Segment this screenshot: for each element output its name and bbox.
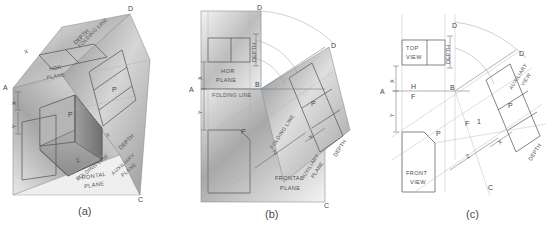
front-view-label-c: FRONT VIEW (406, 170, 427, 185)
svg-text:VIEW: VIEW (410, 179, 426, 185)
feature-label-p-front-c: P (436, 130, 441, 137)
panel-a-caption: (a) (78, 205, 91, 217)
svg-text:X: X (197, 76, 203, 80)
reference-label-f-mid-c: F (465, 120, 469, 127)
svg-text:X: X (389, 79, 395, 83)
point-label-d-top-b: D (257, 4, 262, 11)
svg-text:Y: Y (197, 110, 203, 114)
dim-label-y-left-c: Y (389, 113, 395, 117)
point-label-a-b: A (189, 86, 194, 93)
dim-label-depth-aux-c: DEPTH (527, 143, 542, 162)
reference-line-f1-c (455, 50, 516, 91)
svg-text:DEPTH: DEPTH (527, 143, 542, 162)
svg-text:X: X (23, 48, 29, 55)
feature-label-p-aux-a: P (112, 86, 117, 93)
svg-text:DEPTH: DEPTH (251, 43, 257, 62)
dim-label-depth-top-c: DEPTH (445, 45, 451, 64)
svg-text:TOP: TOP (406, 45, 419, 51)
panel-b-caption: (b) (265, 208, 278, 220)
point-label-a-c: A (380, 88, 385, 95)
panel-a-pictorial: A D C HOR PLANE FRONTAL PLANE AUXILIARY … (0, 0, 186, 227)
point-label-d-right-b: D (331, 42, 336, 49)
reference-label-h-c: H (411, 83, 416, 90)
dim-label-x-top-a: X (23, 48, 29, 55)
panel-c-orthographic-views: TOP VIEW FRONT VIEW AUXILIARY VIEW A B (370, 0, 556, 227)
svg-text:Y: Y (11, 124, 17, 128)
folding-line-label-h-b: FOLDING LINE (212, 92, 252, 98)
feature-label-p-front-b: P (241, 128, 246, 135)
svg-text:DEPTH: DEPTH (445, 45, 451, 64)
feature-label-p-aux-b: P (311, 100, 316, 107)
svg-text:X: X (497, 138, 504, 145)
dim-label-y-a: Y (11, 124, 17, 128)
dim-label-x-a: X (11, 101, 17, 105)
point-label-c-b: C (324, 202, 329, 209)
point-label-b-b: B (255, 81, 260, 88)
svg-text:PLANE: PLANE (216, 77, 236, 83)
dim-label-y-left-b: Y (197, 110, 203, 114)
point-label-c-c: C (488, 184, 493, 191)
point-label-b-c: B (450, 84, 455, 91)
feature-label-p-aux-c: P (508, 102, 513, 109)
point-label-c-a: C (138, 196, 143, 203)
svg-text:X: X (11, 101, 17, 105)
point-label-d-top-c: D (452, 22, 457, 29)
panel-c-caption: (c) (466, 208, 479, 220)
point-label-d-a: D (128, 5, 133, 12)
dim-label-x-left-c: X (389, 79, 395, 83)
figure-auxiliary-view-projection: A D C HOR PLANE FRONTAL PLANE AUXILIARY … (0, 0, 556, 227)
dim-label-x-left-b: X (197, 76, 203, 80)
dim-label-x-aux-c: X (497, 138, 504, 145)
svg-text:Y: Y (389, 113, 395, 117)
point-label-d-right-c: D (519, 50, 524, 57)
svg-text:PLANE: PLANE (280, 185, 300, 191)
svg-text:VIEW: VIEW (406, 54, 422, 60)
point-label-a-a: A (3, 84, 8, 91)
reference-label-f-left-c: F (411, 93, 415, 100)
top-view-rect-c (402, 40, 445, 65)
dim-label-depth-top-b: DEPTH (251, 43, 257, 62)
top-view-label-c: TOP VIEW (406, 45, 422, 60)
panel-b-unfolded: A B C D D HOR PLANE FRONTAL PLANE AUXILI… (185, 0, 371, 227)
reference-label-1-c: 1 (477, 118, 481, 125)
feature-label-p-top-a: P (68, 111, 73, 118)
svg-text:FRONT: FRONT (406, 170, 427, 176)
aux-view-label-c: AUXILIARY VIEW (508, 62, 536, 95)
svg-text:HOR: HOR (221, 68, 235, 74)
